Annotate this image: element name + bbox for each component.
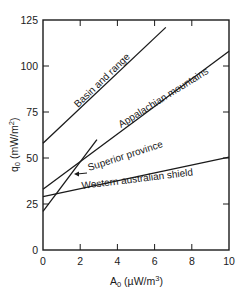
y-tick-label: 0 — [32, 244, 38, 256]
y-tick-label: 75 — [26, 106, 38, 118]
plot-frame — [43, 20, 229, 250]
x-tick-label: 2 — [77, 255, 83, 267]
y-tick-label: 25 — [26, 198, 38, 210]
x-axis-label: A0 (µW/m3) — [110, 274, 163, 289]
pointer-arrowhead — [74, 172, 79, 177]
x-tick-label: 0 — [40, 255, 46, 267]
label-superior-province: Superior province — [86, 138, 164, 173]
y-axis-label: q0 (mW/m2) — [7, 118, 22, 172]
x-tick-label: 10 — [223, 255, 235, 267]
label-appalachian-mountains: Appalachian mountains — [116, 65, 210, 129]
x-tick-label: 8 — [189, 255, 195, 267]
x-tick-label: 6 — [152, 255, 158, 267]
y-tick-label: 125 — [20, 14, 38, 26]
y-tick-label: 100 — [20, 60, 38, 72]
x-tick-label: 4 — [114, 255, 120, 267]
label-basin-and-range: Basin and range — [72, 51, 132, 110]
chart: 02468100255075100125 Basin and range App… — [0, 0, 244, 294]
series-line-basin-and-range — [43, 27, 166, 143]
tick-labels: 02468100255075100125 — [20, 14, 235, 267]
axis-ticks — [43, 20, 229, 250]
series-line-superior-province — [43, 140, 97, 212]
y-tick-label: 50 — [26, 152, 38, 164]
